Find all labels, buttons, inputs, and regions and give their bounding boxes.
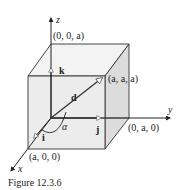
y-axis-label: y [167,104,173,115]
cube-diagram: z y x (0, 0, a) (a, a, a) (0, a, 0) (a, … [0,0,187,190]
z-axis-label: z [55,14,60,25]
point-label-z-corner: (0, 0, a) [53,30,84,42]
x-axis-label: x [17,163,23,174]
point-label-y-corner: (0, a, 0) [128,122,159,134]
vector-k-label: k [59,65,65,76]
point-label-x-corner: (a, 0, 0) [29,151,60,163]
figure-caption: Figure 12.3.6 [8,177,62,188]
point-label-diagonal-corner: (a, a, a) [108,73,138,85]
angle-alpha-label: α [62,121,68,132]
vector-d-label: d [71,92,77,103]
cube-front-face [28,76,105,149]
vector-i-label: i [42,132,45,143]
vector-j-label: j [95,124,99,135]
